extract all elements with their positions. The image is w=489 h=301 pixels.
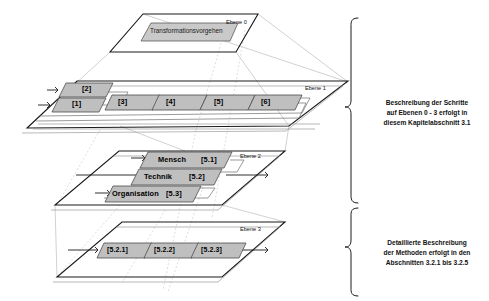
node-label-technik: Technik <box>144 173 172 180</box>
node-label-mensch: Mensch <box>158 156 186 163</box>
node-code-53: [5.3] <box>166 190 182 197</box>
node-5-shape[interactable] <box>200 95 255 110</box>
plane-tag-ebene-0: Ebene 0 <box>226 20 247 26</box>
annotation-upper-line-3: diesem Kapitelabschnitt 3.1 <box>368 118 486 128</box>
node-6-shape[interactable] <box>248 95 302 110</box>
annotation-upper-line-2: auf Ebenen 0 - 3 erfolgt in <box>368 108 486 118</box>
node-label-1: [1] <box>72 100 81 107</box>
plane-tag-ebene-1: Ebene 1 <box>305 86 326 92</box>
annotation-lower-line-1: Detaillierte Beschreibung <box>368 238 486 248</box>
annotation-lower-line-2: der Methoden erfolgt in den <box>368 248 486 258</box>
node-label-5: [5] <box>214 98 223 105</box>
node-label-6: [6] <box>261 98 270 105</box>
node-label-2: [2] <box>82 85 91 92</box>
layered-transformation-diagram: Ebene 0 Ebene 1 Ebene 2 Ebene 3 Transfor… <box>0 0 489 301</box>
annotation-braces <box>345 18 358 296</box>
annotation-lower-line-3: Abschnitten 3.2.1 bis 3.2.5 <box>368 258 486 268</box>
annotation-upper-line-1: Beschreibung der Schritte <box>368 98 486 108</box>
annotation-lower: Detaillierte Beschreibung der Methoden e… <box>368 238 486 268</box>
node-label-3: [3] <box>118 98 127 105</box>
annotation-upper: Beschreibung der Schritte auf Ebenen 0 -… <box>368 98 486 128</box>
plane-tag-ebene-3: Ebene 3 <box>240 227 261 233</box>
node-4-shape[interactable] <box>152 95 207 110</box>
node-label-4: [4] <box>166 98 175 105</box>
node-label-521: [5.2.1] <box>107 246 128 253</box>
node-label-522: [5.2.2] <box>154 246 175 253</box>
node-label-523: [5.2.3] <box>201 246 222 253</box>
node-label-organisation: Organisation <box>112 190 159 197</box>
node-3-shape[interactable] <box>105 95 160 110</box>
node-code-52: [5.2] <box>189 173 205 180</box>
node-code-51: [5.1] <box>201 156 217 163</box>
plane-tag-ebene-2: Ebene 2 <box>240 154 261 160</box>
node-label-transformationsvorgehen: Transformationsvorgehen <box>150 28 223 34</box>
